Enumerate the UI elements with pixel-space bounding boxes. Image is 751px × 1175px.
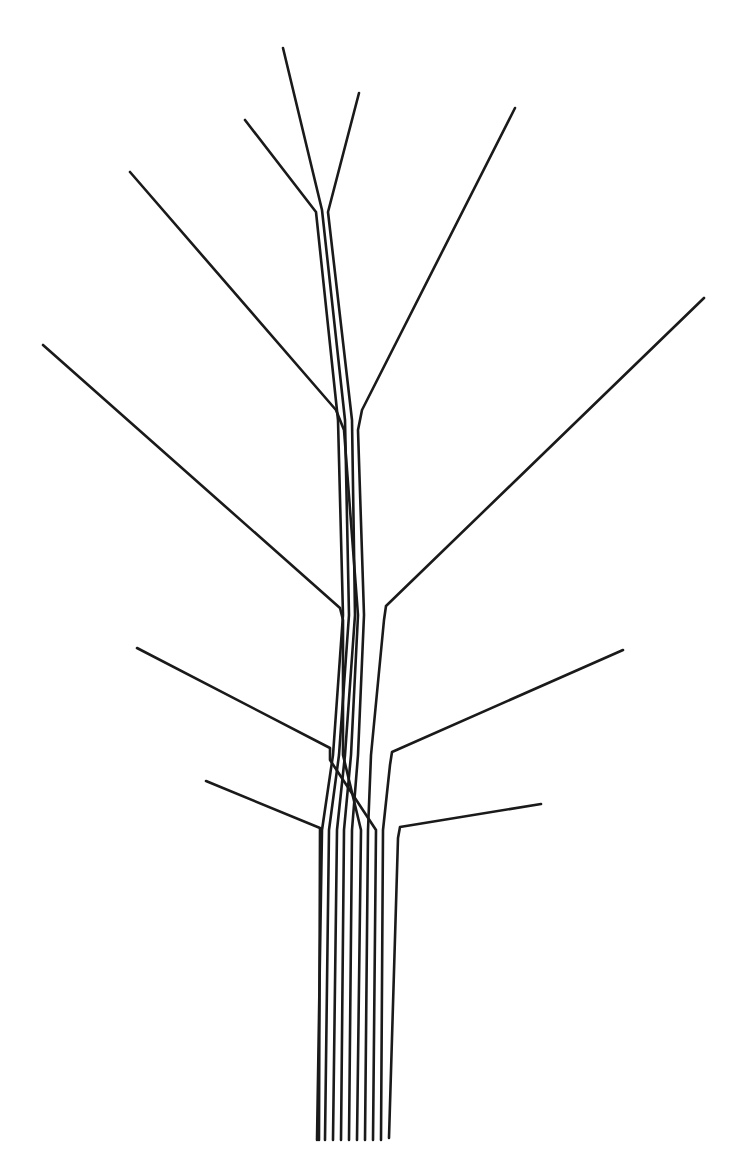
- tree-diagram: [0, 0, 751, 1175]
- tree-drawing: [0, 0, 751, 1175]
